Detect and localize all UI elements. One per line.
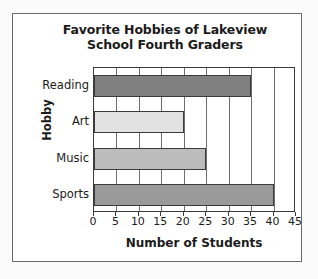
chart-title: Favorite Hobbies of Lakeview School Four… <box>40 22 290 52</box>
x-tick-label-5: 5 <box>103 215 127 228</box>
x-tick-label-25: 25 <box>193 215 217 228</box>
x-tick-label-10: 10 <box>126 215 150 228</box>
x-tick-label-30: 30 <box>216 215 240 228</box>
bar-music <box>94 148 206 170</box>
bar-reading <box>94 75 251 97</box>
chart-title-line-2: School Fourth Graders <box>40 37 290 52</box>
bar-series <box>94 68 294 211</box>
chart-title-line-1: Favorite Hobbies of Lakeview <box>40 22 290 37</box>
x-axis-tick-labels: 051015202530354045 <box>93 215 295 229</box>
x-tick-label-45: 45 <box>283 215 307 228</box>
bar-sports <box>94 184 274 206</box>
y-tick-label-sports: Sports <box>52 188 89 200</box>
plot-area <box>93 67 295 212</box>
y-tick-label-music: Music <box>56 152 89 164</box>
chart-page: Favorite Hobbies of Lakeview School Four… <box>0 0 318 279</box>
y-axis-tick-labels: ReadingArtMusicSports <box>30 67 91 212</box>
y-tick-label-art: Art <box>72 115 89 127</box>
x-tick-label-20: 20 <box>171 215 195 228</box>
y-tick-label-reading: Reading <box>42 79 89 91</box>
bar-art <box>94 111 184 133</box>
x-tick-label-0: 0 <box>81 215 105 228</box>
x-tick-label-35: 35 <box>238 215 262 228</box>
x-tick-label-15: 15 <box>148 215 172 228</box>
x-tick-label-40: 40 <box>261 215 285 228</box>
x-axis-title: Number of Students <box>93 236 295 250</box>
